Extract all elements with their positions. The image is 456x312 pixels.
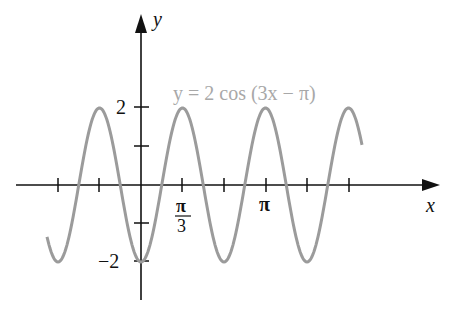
y-tick-label-neg2: −2: [98, 250, 119, 272]
function-label: y = 2 cos (3x − π): [173, 82, 316, 105]
x-tick-label-pi: π: [259, 193, 270, 215]
x-tick-label-pi3-num: π: [176, 196, 186, 216]
cosine-graph: y x 2 −2 π 3 π y = 2 cos (3x − π): [0, 0, 456, 312]
x-tick-label-pi3-den: 3: [177, 216, 186, 236]
y-axis-arrow-icon: [135, 14, 147, 33]
y-tick-label-2: 2: [116, 96, 126, 118]
x-axis-arrow-icon: [422, 179, 440, 191]
x-axis-label: x: [425, 194, 435, 216]
y-axis-label: y: [151, 8, 162, 31]
